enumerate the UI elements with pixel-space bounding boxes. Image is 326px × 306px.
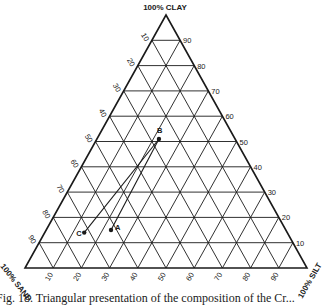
left-axis-label: 80: [40, 208, 52, 220]
gridline-silt: [166, 142, 237, 269]
point-b-label: B: [157, 126, 163, 135]
left-axis-label: 40: [97, 107, 109, 119]
gridline-sand: [124, 91, 223, 268]
connector-line-b-c: [84, 139, 159, 233]
right-axis-label: 20: [282, 213, 290, 222]
bottom-axis-label: 20: [71, 271, 83, 283]
point-c-marker: [82, 230, 86, 234]
gridline-sand: [39, 243, 53, 268]
left-axis-label: 50: [83, 132, 95, 144]
connector-line-b-a: [111, 139, 159, 230]
right-axis-label: 40: [254, 163, 262, 172]
bottom-axis-label: 70: [212, 271, 224, 283]
bottom-axis-label: 80: [240, 271, 252, 283]
right-axis-label: 80: [197, 62, 205, 71]
bottom-axis-label: 10: [43, 271, 55, 283]
gridline-silt: [110, 91, 209, 268]
right-axis-label: 60: [225, 112, 233, 121]
left-axis-label: 70: [54, 183, 66, 195]
axis-labels: 1020304050607080909080706050403020101020…: [26, 31, 304, 282]
left-axis-label: 90: [26, 234, 38, 246]
bottom-axis-label: 30: [99, 271, 111, 283]
point-b-marker: [157, 137, 161, 141]
gridline-silt: [279, 243, 293, 268]
point-c-label: C: [76, 229, 82, 238]
gridline-sand: [67, 192, 109, 268]
left-axis-label: 10: [139, 31, 151, 43]
bottom-axis-label: 40: [128, 271, 140, 283]
vertex-label-clay: 100% CLAY: [143, 3, 187, 12]
left-axis-label: 30: [111, 82, 123, 94]
left-axis-label: 60: [69, 158, 81, 170]
left-axis-label: 20: [125, 56, 137, 68]
right-axis-label: 50: [240, 138, 248, 147]
bottom-axis-label: 50: [156, 271, 168, 283]
point-a-label: A: [115, 223, 121, 232]
bottom-axis-label: 90: [269, 271, 281, 283]
right-axis-label: 10: [296, 239, 304, 248]
connector-lines: [84, 139, 159, 233]
bottom-axis-label: 60: [184, 271, 196, 283]
gridline-silt: [53, 40, 180, 268]
triangle-grid: [25, 15, 307, 268]
figure-caption: Fig. 18. Triangular presentation of the …: [0, 291, 326, 306]
right-axis-label: 30: [268, 188, 276, 197]
gridline-silt: [222, 192, 264, 268]
point-a-marker: [109, 228, 113, 232]
right-axis-label: 70: [211, 87, 219, 96]
right-axis-label: 90: [183, 36, 191, 45]
gridline-sand: [152, 40, 279, 268]
